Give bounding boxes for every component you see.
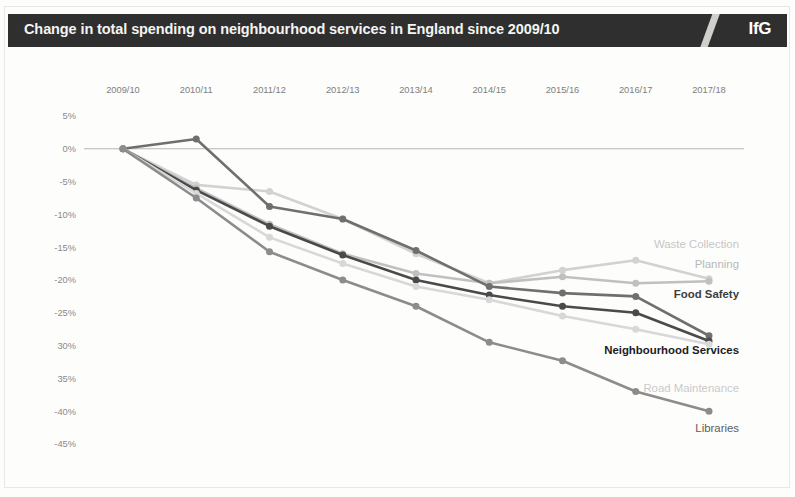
data-point [266,234,273,241]
data-point [339,260,346,267]
data-point [632,293,639,300]
data-point [486,283,493,290]
series-planning [120,145,713,286]
data-point [266,248,273,255]
data-point [486,339,493,346]
plot-area: 2009/102010/112011/122012/132013/142014/… [0,55,795,485]
y-axis-tick: 5% [63,111,76,121]
y-axis-tick: -40% [54,407,76,417]
series-road-maintenance [120,145,713,347]
y-axis-tick: -10% [54,210,76,220]
series-neighbourhood-services [120,145,713,344]
data-point [339,277,346,284]
y-axis-tick: -25% [54,308,76,318]
data-point [632,388,639,395]
data-point [559,303,566,310]
x-axis-tick: 2010/11 [180,85,213,95]
y-axis-tick: 30% [57,341,76,351]
y-axis-tick: -20% [54,275,76,285]
data-point [632,326,639,333]
data-point [413,303,420,310]
data-point [559,357,566,364]
chart-figure: Change in total spending on neighbourhoo… [0,0,795,497]
data-point [266,188,273,195]
chart-header-bar: Change in total spending on neighbourhoo… [8,14,787,47]
y-axis-tick-labels: 5%0%-5%-10%-15%-20%-25%30%35%-40%-45% [54,111,76,449]
series-label-road-maintenance: Road Maintenance [643,382,739,394]
series-label-waste-collection: Waste Collection [654,238,739,250]
data-point [706,408,713,415]
series-label-neighbourhood-services: Neighbourhood Services [604,344,739,356]
data-point [632,257,639,264]
data-point [339,252,346,259]
data-point [559,267,566,274]
data-point [413,247,420,254]
series-waste-collection [120,145,713,286]
data-point [413,270,420,277]
ifg-logo: IfG [749,19,771,39]
y-axis-tick: -5% [59,177,76,187]
data-point [559,290,566,297]
data-point [413,277,420,284]
x-axis-tick: 2013/14 [399,85,433,95]
y-axis-tick: 35% [57,374,76,384]
data-point [632,309,639,316]
data-point [559,273,566,280]
data-point [413,283,420,290]
data-point [706,278,713,285]
chart-title: Change in total spending on neighbourhoo… [24,21,560,37]
x-axis-tick: 2012/13 [326,85,360,95]
data-point [559,313,566,320]
series-label-libraries: Libraries [695,422,739,434]
series-line [123,149,709,341]
y-axis-tick: 0% [63,144,76,154]
x-axis-tick: 2017/18 [692,85,726,95]
y-axis-tick: -15% [54,243,76,253]
series-label-planning: Planning [695,258,739,270]
x-axis-tick-labels: 2009/102010/112011/122012/132013/142014/… [106,85,726,95]
x-axis-tick: 2015/16 [546,85,580,95]
series-line [123,149,709,344]
y-axis-tick: -45% [54,439,76,449]
data-point [266,223,273,230]
data-point [632,280,639,287]
x-axis-tick: 2009/10 [106,85,140,95]
series-lines [120,135,713,414]
series-label-food-safety: Food Safety [674,288,740,300]
x-axis-tick: 2011/12 [253,85,286,95]
series-line [123,149,709,283]
data-point [193,195,200,202]
data-point [486,296,493,303]
line-chart-svg: 2009/102010/112011/122012/132013/142014/… [0,55,795,485]
data-point [120,145,127,152]
logo-slash-icon [697,14,723,47]
x-axis-tick: 2016/17 [619,85,653,95]
x-axis-tick: 2014/15 [472,85,506,95]
data-point [339,215,346,222]
data-point [266,203,273,210]
data-point [193,135,200,142]
